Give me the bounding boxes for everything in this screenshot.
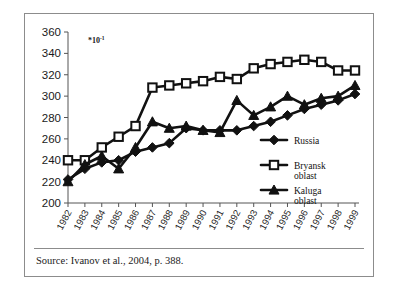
data-point-marker [334,66,342,74]
y-tick-label: 280 [42,112,61,124]
x-tick-label: 1988 [155,208,175,232]
line-chart-svg: 200220240260280300320340360 198219831984… [25,14,373,246]
chart-legend: RussiaBryanskoblastKalugaoblast [261,135,326,206]
data-point-marker [283,58,291,66]
data-point-marker [282,91,292,100]
data-point-marker [148,143,158,153]
x-tick-label: 1993 [240,208,260,232]
x-tick-label: 1987 [139,208,159,232]
legend-label-line2: oblast [294,171,317,181]
x-tick-label: 1989 [172,208,192,232]
legend-item-bryansk: Bryanskoblast [261,161,326,182]
x-tick-label: 1999 [341,208,361,232]
x-tick-label: 1983 [71,208,91,232]
data-point-marker [182,79,190,87]
data-point-marker [199,77,207,85]
y-tick-label: 200 [42,197,61,209]
data-point-marker [64,156,72,164]
chart-plot-area: 200220240260280300320340360 198219831984… [25,14,373,246]
data-point-marker [131,122,139,130]
figure-frame: 200220240260280300320340360 198219831984… [24,13,374,277]
data-point-marker [250,64,258,72]
y-tick-label: 220 [42,176,61,188]
x-tick-label: 1995 [274,208,294,232]
data-point-marker [216,73,224,81]
y-axis-exponent-note: *10-1 [88,35,105,45]
y-axis-tick-labels: 200220240260280300320340360 [42,26,61,209]
data-point-marker [266,117,276,127]
data-point-marker [350,80,360,89]
data-point-marker [266,60,274,68]
legend-label: Bryansk [294,161,326,171]
y-tick-label: 300 [42,90,61,102]
caption-divider [34,248,364,249]
x-tick-label: 1991 [206,208,226,232]
y-tick-label: 240 [42,154,61,166]
data-point-marker [283,111,293,121]
legend-label-line2: oblast [294,196,317,206]
data-point-marker [300,56,308,64]
x-axis-tick-labels: 1982198319841985198619871988198919901991… [54,208,361,232]
y-tick-label: 320 [42,69,61,81]
x-tick-label: 1998 [324,208,344,232]
data-point-marker [350,89,360,99]
data-point-marker [232,126,242,136]
y-tick-label: 360 [42,26,61,38]
data-point-marker [232,95,242,104]
x-tick-label: 1996 [290,208,310,232]
y-tick-label: 260 [42,133,61,145]
series-bryansk-oblast [64,56,359,165]
data-point-marker [165,81,173,89]
data-point-marker [114,133,122,141]
data-point-marker [233,75,241,83]
legend-label: Russia [294,136,320,146]
x-tick-label: 1986 [122,208,142,232]
y-tick-label: 340 [42,47,61,59]
data-point-marker [351,66,359,74]
x-tick-label: 1997 [307,208,327,232]
x-tick-label: 1994 [257,208,277,232]
x-tick-label: 1990 [189,208,209,232]
data-point-marker [317,58,325,66]
x-tick-label: 1992 [223,208,243,232]
legend-item-russia: Russia [261,135,320,145]
legend-marker [270,161,278,169]
x-tick-label: 1985 [105,208,125,232]
x-tick-label: 1982 [54,208,74,232]
data-point-marker [147,117,157,126]
x-tick-label: 1984 [88,208,108,232]
source-caption: Source: Ivanov et al., 2004, p. 388. [36,255,183,266]
legend-label: Kaluga [294,186,322,196]
data-point-marker [249,121,259,131]
data-point-marker [148,83,156,91]
legend-marker [269,135,279,145]
